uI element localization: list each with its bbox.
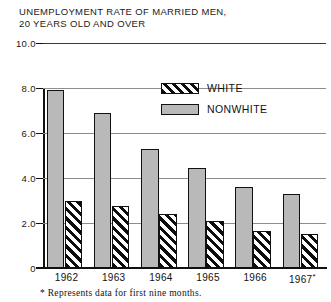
legend-item-white: WHITE — [161, 80, 301, 96]
legend: WHITENONWHITE — [161, 80, 301, 122]
x-axis-tick-label: 1965 — [185, 272, 232, 283]
bar-nonwhite — [141, 149, 159, 268]
bar-group-1962 — [43, 43, 90, 268]
y-axis-tick-mark — [36, 133, 43, 134]
bar-nonwhite — [47, 90, 65, 268]
chart-title: UNEMPLOYMENT RATE OF MARRIED MEN, 20 YEA… — [19, 6, 319, 29]
bar-nonwhite — [235, 187, 253, 268]
legend-swatch-icon — [161, 83, 199, 94]
x-axis-tick-label: 1962 — [43, 272, 90, 283]
plot-area — [43, 43, 326, 268]
bar-white — [112, 206, 130, 268]
x-axis-label-group: 196219631964196519661967* — [43, 272, 326, 288]
bar-white — [301, 234, 319, 268]
bar-group-1965 — [185, 43, 232, 268]
bar-group-1966 — [232, 43, 279, 268]
y-axis-tick-label: 6.0 — [22, 128, 36, 139]
bar-nonwhite — [94, 113, 112, 268]
legend-swatch-icon — [161, 104, 199, 115]
footnote: * Represents data for first nine months. — [40, 288, 202, 298]
bar-group-1967 — [279, 43, 326, 268]
y-axis-label-group: 02.04.06.08.010.0 — [0, 43, 36, 268]
bar-group-1964 — [137, 43, 184, 268]
bar-white — [65, 201, 83, 269]
y-axis-tick-label: 8.0 — [22, 83, 36, 94]
y-axis-tick-label: 10.0 — [16, 38, 36, 49]
x-axis-tick-label: 1964 — [137, 272, 184, 283]
footnote-marker: * — [312, 272, 315, 281]
y-axis-tick-mark — [36, 178, 43, 179]
legend-label: WHITE — [207, 82, 243, 94]
bar-group-1963 — [90, 43, 137, 268]
legend-item-nonwhite: NONWHITE — [161, 101, 301, 117]
x-axis-tick-label: 1967* — [279, 272, 326, 285]
y-axis-tick-mark — [36, 43, 43, 44]
legend-label: NONWHITE — [207, 103, 267, 115]
y-axis-tick-label: 4.0 — [22, 173, 36, 184]
bar-nonwhite — [283, 194, 301, 268]
bar-nonwhite — [188, 168, 206, 268]
y-axis-tick-group — [36, 43, 43, 268]
x-axis-tick-label: 1966 — [232, 272, 279, 283]
bar-white — [159, 214, 177, 268]
y-axis-tick-label: 2.0 — [22, 218, 36, 229]
y-axis-tick-mark — [36, 223, 43, 224]
y-axis-tick-mark — [36, 88, 43, 89]
bar-white — [253, 231, 271, 268]
bar-white — [206, 221, 224, 268]
x-axis-tick-label: 1963 — [90, 272, 137, 283]
